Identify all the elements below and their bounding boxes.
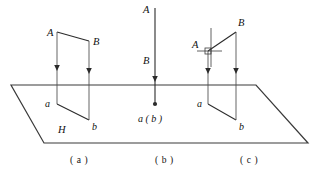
panel-a: A B a b	[45, 27, 100, 132]
point-label-a-a: a	[45, 98, 50, 109]
point-label-A-c: A	[191, 39, 199, 50]
point-label-B-c: B	[238, 17, 245, 28]
segment-ab-a	[57, 104, 89, 120]
arrowhead-icon	[86, 68, 92, 74]
point-label-B-a: B	[93, 36, 100, 47]
segment-ab-c	[208, 104, 236, 120]
point-label-A-a: A	[46, 27, 54, 38]
arrowhead-icon	[152, 76, 158, 82]
panel-b: A B a ( b )	[138, 4, 163, 125]
segment-AB-a	[57, 32, 89, 41]
segment-AB-c	[208, 32, 236, 51]
panel-c: A B a b	[191, 17, 245, 132]
arrowhead-icon	[54, 65, 60, 71]
caption-c: ( c )	[240, 155, 258, 166]
caption-b: ( b )	[155, 155, 174, 166]
arrowhead-icon	[233, 68, 239, 74]
point-label-a-c: a	[197, 98, 202, 109]
point-label-b-a: b	[92, 121, 97, 132]
point-label-b-c: b	[239, 121, 244, 132]
point-label-A-b: A	[142, 4, 150, 15]
point-dot-ab-b	[153, 102, 157, 106]
figure-canvas: H A B a b A B a ( b )	[0, 0, 313, 171]
arrowhead-icon	[205, 68, 211, 74]
plane-h-label: H	[57, 124, 67, 135]
geometry-figure: H A B a b A B a ( b )	[0, 0, 313, 171]
point-label-B-b: B	[143, 55, 150, 66]
point-label-ab-b: a ( b )	[138, 113, 163, 125]
caption-a: ( a )	[70, 155, 88, 166]
right-angle-mark-icon	[197, 28, 222, 67]
